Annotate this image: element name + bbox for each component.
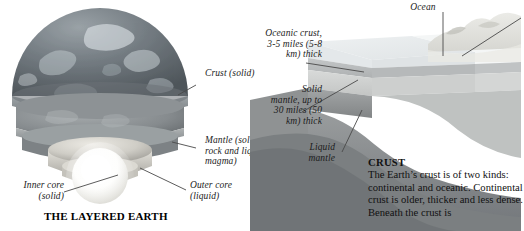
xsection-landmass: [428, 13, 521, 62]
crust-paragraph: The Earth’s crust is of two kinds: conti…: [368, 169, 524, 219]
label-inner-core: Inner core (solid): [0, 180, 64, 201]
crust-heading: CRUST: [368, 157, 524, 169]
left-panel-title: THE LAYERED EARTH: [44, 210, 168, 222]
label-liquid-mantle: Liquid mantle: [288, 142, 335, 163]
label-oceanic-crust: Oceanic crust, 3-5 miles (5-8 km) thick: [252, 28, 322, 60]
label-outer-core: Outer core (liquid): [190, 180, 232, 201]
crust-text-block: CRUST The Earth’s crust is of two kinds:…: [368, 157, 524, 219]
earth-layer-inner-core: [66, 142, 134, 210]
label-crust: Crust (solid): [205, 68, 255, 79]
label-solid-mantle: Solid mantle, up to 30 miles (50 km) thi…: [258, 84, 322, 126]
label-ocean: Ocean: [400, 2, 446, 13]
